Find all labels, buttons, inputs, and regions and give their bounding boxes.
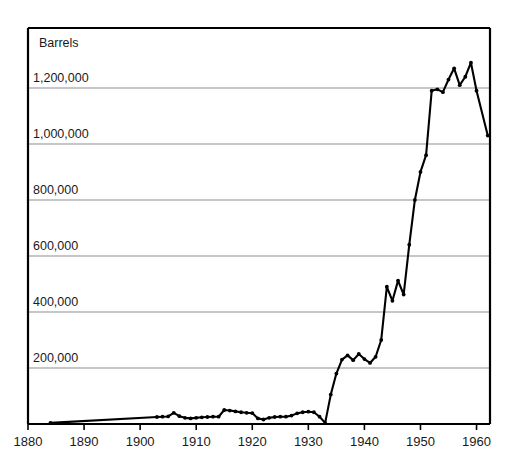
y-tick-label: 200,000	[33, 351, 78, 365]
data-point	[312, 410, 316, 414]
data-point	[183, 416, 187, 420]
data-point	[290, 414, 294, 418]
data-point	[329, 393, 333, 397]
data-point	[447, 78, 451, 82]
y-tick-label: 1,200,000	[33, 71, 89, 85]
x-tick-label: 1880	[14, 434, 43, 449]
y-tick-label: 600,000	[33, 239, 78, 253]
x-tick-label: 1890	[70, 434, 99, 449]
data-point	[486, 134, 490, 138]
data-point	[301, 410, 305, 414]
data-point	[295, 411, 299, 415]
data-point	[262, 418, 266, 422]
data-point	[407, 243, 411, 247]
data-point	[374, 355, 378, 359]
data-point	[340, 358, 344, 362]
y-tick-label: 1,000,000	[33, 127, 89, 141]
data-point	[273, 415, 277, 419]
data-point	[435, 87, 439, 91]
data-point	[155, 415, 159, 419]
data-point	[379, 338, 383, 342]
data-point	[318, 415, 322, 419]
data-point	[222, 408, 226, 412]
data-point	[463, 75, 467, 79]
data-point	[424, 153, 428, 157]
data-point	[234, 410, 238, 414]
data-point	[166, 415, 170, 419]
data-point	[250, 411, 254, 415]
data-point	[177, 414, 181, 418]
data-point	[357, 352, 361, 356]
x-tick-label: 1950	[406, 434, 435, 449]
data-point	[351, 358, 355, 362]
x-tick-label: 1930	[294, 434, 323, 449]
data-point	[346, 353, 350, 357]
data-point	[189, 417, 193, 421]
data-point	[306, 410, 310, 414]
y-tick-label: 400,000	[33, 295, 78, 309]
data-point	[278, 415, 282, 419]
line-chart: 200,000400,000600,000800,0001,000,0001,2…	[0, 0, 511, 472]
chart-figure: 200,000400,000600,000800,0001,000,0001,2…	[0, 0, 511, 472]
data-point	[256, 417, 260, 421]
data-point	[363, 357, 367, 361]
x-tick-label: 1910	[182, 434, 211, 449]
data-point	[49, 421, 53, 425]
data-point	[245, 411, 249, 415]
data-point	[475, 89, 479, 93]
data-point	[211, 415, 215, 419]
x-tick-label: 1920	[238, 434, 267, 449]
y-axis-title: Barrels	[39, 36, 79, 50]
data-point	[217, 415, 221, 419]
data-point	[284, 415, 288, 419]
data-point	[469, 61, 473, 65]
data-point	[194, 416, 198, 420]
data-point	[228, 409, 232, 413]
data-point	[396, 279, 400, 283]
data-point	[413, 198, 417, 202]
x-tick-label: 1940	[350, 434, 379, 449]
data-point	[452, 66, 456, 70]
data-point	[200, 415, 204, 419]
data-point	[368, 361, 372, 365]
data-point	[402, 293, 406, 297]
data-point	[430, 89, 434, 93]
data-point	[334, 372, 338, 376]
x-tick-label: 1960	[462, 434, 491, 449]
data-point	[161, 415, 165, 419]
data-point	[385, 285, 389, 289]
data-point	[267, 416, 271, 420]
data-point	[458, 83, 462, 87]
data-point	[172, 411, 176, 415]
x-axis-tick-labels: 188018901900191019201930194019501960	[14, 434, 491, 449]
data-point	[391, 299, 395, 303]
data-point	[239, 410, 243, 414]
data-point	[323, 421, 327, 425]
data-point	[206, 415, 210, 419]
data-point	[441, 90, 445, 94]
data-point	[419, 170, 423, 174]
x-tick-label: 1900	[126, 434, 155, 449]
y-tick-label: 800,000	[33, 183, 78, 197]
